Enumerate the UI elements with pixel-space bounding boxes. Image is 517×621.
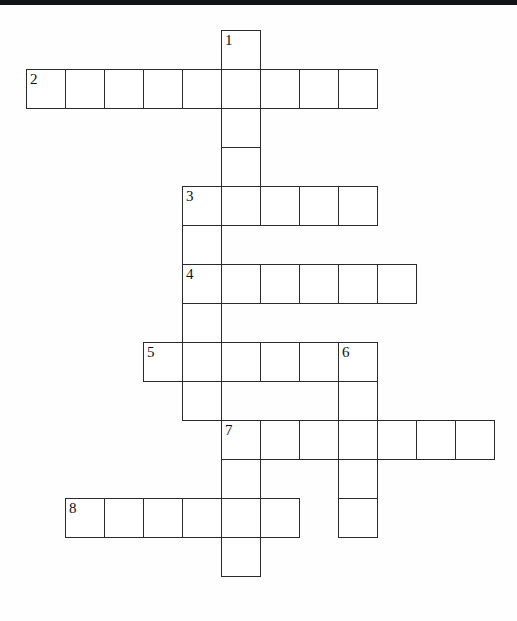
crossword-cell[interactable] bbox=[182, 498, 222, 538]
crossword-cell[interactable] bbox=[260, 186, 300, 226]
crossword-cell[interactable] bbox=[338, 264, 378, 304]
crossword-cell[interactable] bbox=[221, 537, 261, 577]
crossword-cell[interactable] bbox=[299, 342, 339, 382]
crossword-cell[interactable] bbox=[377, 264, 417, 304]
crossword-cell[interactable] bbox=[182, 381, 222, 421]
crossword-cell[interactable] bbox=[104, 69, 144, 109]
crossword-cell[interactable] bbox=[221, 459, 261, 499]
crossword-cell[interactable] bbox=[221, 108, 261, 148]
clue-number-4: 4 bbox=[186, 267, 194, 282]
crossword-grid[interactable]: 12345678 bbox=[0, 0, 517, 621]
crossword-cell[interactable] bbox=[338, 459, 378, 499]
crossword-cell[interactable] bbox=[182, 69, 222, 109]
crossword-cell[interactable] bbox=[455, 420, 495, 460]
crossword-cell[interactable] bbox=[104, 498, 144, 538]
crossword-cell[interactable] bbox=[221, 69, 261, 109]
crossword-cell[interactable] bbox=[65, 69, 105, 109]
crossword-cell[interactable] bbox=[299, 186, 339, 226]
crossword-cell[interactable] bbox=[260, 498, 300, 538]
crossword-cell[interactable] bbox=[338, 498, 378, 538]
clue-number-2: 2 bbox=[30, 72, 38, 87]
crossword-cell[interactable] bbox=[416, 420, 456, 460]
crossword-cell[interactable] bbox=[260, 342, 300, 382]
clue-number-7: 7 bbox=[225, 423, 233, 438]
crossword-cell[interactable] bbox=[221, 264, 261, 304]
crossword-cell[interactable] bbox=[182, 342, 222, 382]
clue-number-5: 5 bbox=[147, 345, 155, 360]
crossword-cell[interactable] bbox=[260, 69, 300, 109]
crossword-cell[interactable] bbox=[338, 186, 378, 226]
crossword-cell[interactable] bbox=[377, 420, 417, 460]
crossword-cell[interactable] bbox=[182, 225, 222, 265]
crossword-cell[interactable] bbox=[338, 420, 378, 460]
clue-number-8: 8 bbox=[69, 501, 77, 516]
clue-number-3: 3 bbox=[186, 189, 194, 204]
crossword-cell[interactable] bbox=[143, 498, 183, 538]
crossword-cell[interactable] bbox=[182, 303, 222, 343]
crossword-cell[interactable] bbox=[338, 69, 378, 109]
crossword-cell[interactable] bbox=[299, 420, 339, 460]
crossword-cell[interactable] bbox=[221, 147, 261, 187]
crossword-cell[interactable] bbox=[299, 69, 339, 109]
crossword-cell[interactable] bbox=[221, 498, 261, 538]
crossword-cell[interactable] bbox=[260, 420, 300, 460]
crossword-cell[interactable] bbox=[221, 342, 261, 382]
crossword-cell[interactable] bbox=[143, 69, 183, 109]
crossword-cell[interactable] bbox=[221, 186, 261, 226]
crossword-cell[interactable] bbox=[260, 264, 300, 304]
clue-number-6: 6 bbox=[342, 345, 350, 360]
clue-number-1: 1 bbox=[225, 33, 233, 48]
crossword-cell[interactable] bbox=[338, 381, 378, 421]
crossword-cell[interactable] bbox=[299, 264, 339, 304]
